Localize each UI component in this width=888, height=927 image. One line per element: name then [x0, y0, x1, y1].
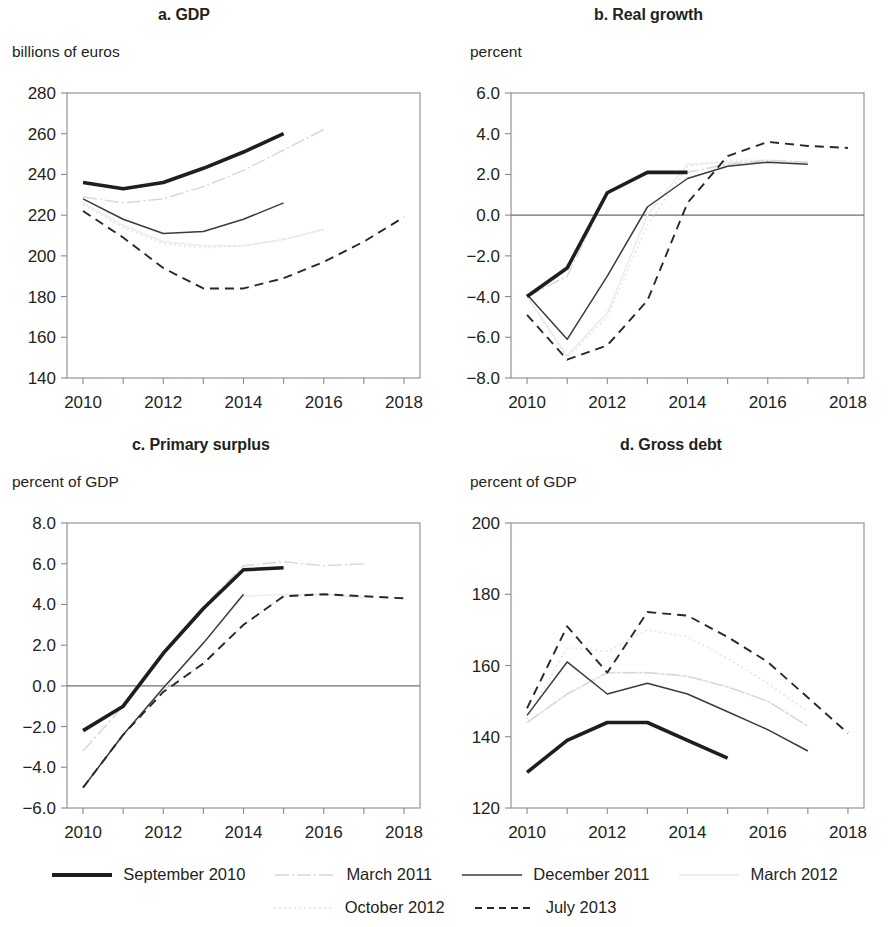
legend-line-swatch-icon — [677, 868, 741, 882]
legend-line-swatch-icon — [473, 901, 537, 915]
svg-text:140: 140 — [28, 369, 56, 388]
svg-text:2012: 2012 — [144, 823, 182, 842]
panel-real-growth: b. Real growth percent −8.0−6.0−4.0−2.00… — [444, 0, 888, 430]
svg-text:2014: 2014 — [225, 823, 263, 842]
svg-text:280: 280 — [28, 84, 56, 103]
figure-legend: September 2010March 2011December 2011Mar… — [0, 858, 888, 927]
legend-line-swatch-icon — [273, 868, 337, 882]
svg-text:2018: 2018 — [385, 393, 423, 412]
svg-text:4.0: 4.0 — [32, 595, 56, 614]
svg-text:6.0: 6.0 — [476, 84, 500, 103]
legend-item-march-2011: March 2011 — [273, 865, 432, 884]
panel-gross-debt: d. Gross debt percent of GDP 12014016018… — [444, 430, 888, 860]
svg-text:220: 220 — [28, 206, 56, 225]
panel-b-plot: −8.0−6.0−4.0−2.00.02.04.06.0201020122014… — [444, 0, 888, 430]
svg-text:180: 180 — [472, 585, 500, 604]
panel-a-plot: 1401601802002202402602802010201220142016… — [0, 0, 444, 430]
legend-item-september-2010: September 2010 — [50, 865, 245, 884]
svg-text:2018: 2018 — [829, 393, 867, 412]
svg-text:2016: 2016 — [749, 393, 787, 412]
svg-text:2010: 2010 — [508, 823, 546, 842]
legend-row-2: October 2012July 2013 — [0, 891, 888, 924]
svg-text:2.0: 2.0 — [476, 165, 500, 184]
legend-item-march-2012: March 2012 — [677, 865, 837, 884]
legend-label: March 2011 — [346, 865, 432, 884]
legend-line-swatch-icon — [460, 868, 524, 882]
svg-text:−8.0: −8.0 — [466, 369, 500, 388]
svg-text:2018: 2018 — [829, 823, 867, 842]
svg-text:2016: 2016 — [305, 393, 343, 412]
svg-text:2.0: 2.0 — [32, 636, 56, 655]
svg-text:2012: 2012 — [144, 393, 182, 412]
svg-text:200: 200 — [472, 514, 500, 533]
svg-text:8.0: 8.0 — [32, 514, 56, 533]
svg-text:2010: 2010 — [64, 823, 102, 842]
legend-label: September 2010 — [123, 865, 245, 884]
legend-row-1: September 2010March 2011December 2011Mar… — [0, 858, 888, 891]
legend-item-december-2011: December 2011 — [460, 865, 649, 884]
svg-text:−4.0: −4.0 — [22, 758, 56, 777]
legend-label: October 2012 — [345, 898, 445, 917]
svg-text:4.0: 4.0 — [476, 125, 500, 144]
svg-text:2014: 2014 — [225, 393, 263, 412]
legend-label: December 2011 — [533, 865, 649, 884]
panel-d-plot: 12014016018020020102012201420162018 — [444, 430, 888, 860]
svg-text:−4.0: −4.0 — [466, 288, 500, 307]
svg-text:0.0: 0.0 — [476, 206, 500, 225]
svg-text:2012: 2012 — [588, 393, 626, 412]
svg-text:140: 140 — [472, 728, 500, 747]
svg-text:2012: 2012 — [588, 823, 626, 842]
svg-text:6.0: 6.0 — [32, 555, 56, 574]
svg-text:160: 160 — [472, 657, 500, 676]
legend-line-swatch-icon — [272, 901, 336, 915]
svg-text:−2.0: −2.0 — [466, 247, 500, 266]
legend-label: March 2012 — [750, 865, 837, 884]
panel-gdp: a. GDP billions of euros 140160180200220… — [0, 0, 444, 430]
svg-text:260: 260 — [28, 125, 56, 144]
svg-text:−2.0: −2.0 — [22, 718, 56, 737]
svg-text:2014: 2014 — [669, 823, 707, 842]
svg-text:2010: 2010 — [508, 393, 546, 412]
legend-label: July 2013 — [546, 898, 617, 917]
svg-text:2010: 2010 — [64, 393, 102, 412]
panel-primary-surplus: c. Primary surplus percent of GDP −6.0−4… — [0, 430, 444, 860]
legend-item-july-2013: July 2013 — [473, 898, 617, 917]
panel-c-plot: −6.0−4.0−2.00.02.04.06.08.02010201220142… — [0, 430, 444, 860]
figure-panel-grid: a. GDP billions of euros 140160180200220… — [0, 0, 888, 860]
svg-text:0.0: 0.0 — [32, 677, 56, 696]
svg-text:2018: 2018 — [385, 823, 423, 842]
svg-text:120: 120 — [472, 799, 500, 818]
svg-text:240: 240 — [28, 165, 56, 184]
svg-text:2016: 2016 — [749, 823, 787, 842]
legend-item-october-2012: October 2012 — [272, 898, 445, 917]
svg-text:−6.0: −6.0 — [22, 799, 56, 818]
svg-text:200: 200 — [28, 247, 56, 266]
svg-text:180: 180 — [28, 288, 56, 307]
legend-line-swatch-icon — [50, 868, 114, 882]
svg-text:2016: 2016 — [305, 823, 343, 842]
svg-text:160: 160 — [28, 328, 56, 347]
svg-text:2014: 2014 — [669, 393, 707, 412]
svg-text:−6.0: −6.0 — [466, 328, 500, 347]
